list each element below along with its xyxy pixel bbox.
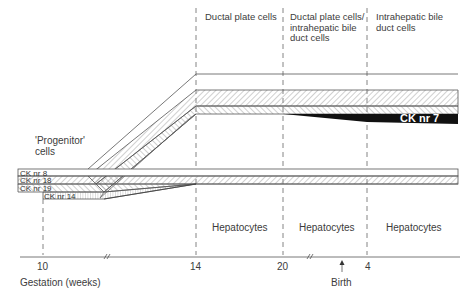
birth-arrow-icon — [340, 260, 345, 265]
stage-label-ductal-intrahepatic: Ductal plate cells/ intrahepatic bile du… — [290, 12, 365, 44]
stage-dividers — [43, 8, 367, 255]
tick-10: 10 — [37, 261, 48, 272]
stage-label-ductal-plate: Ductal plate cells — [205, 12, 277, 23]
ck14-label: CK nr 14 — [44, 193, 76, 201]
tick-20: 20 — [277, 261, 288, 272]
hepatocytes-label-1: Hepatocytes — [212, 222, 268, 233]
axis-label: Gestation (weeks) — [20, 277, 101, 288]
ck7-label: CK nr 7 — [400, 112, 439, 124]
hepatocytes-label-3: Hepatocytes — [386, 222, 442, 233]
hepatocyte-bands — [18, 169, 458, 199]
tick-4: 4 — [365, 261, 371, 272]
tick-14: 14 — [190, 261, 201, 272]
progenitor-label: 'Progenitor' cells — [35, 135, 85, 157]
stage-label-intrahepatic: Intrahepatic bile duct cells — [376, 12, 456, 33]
birth-label: Birth — [331, 277, 352, 288]
hepatocytes-label-2: Hepatocytes — [299, 222, 355, 233]
time-axis — [20, 254, 460, 272]
